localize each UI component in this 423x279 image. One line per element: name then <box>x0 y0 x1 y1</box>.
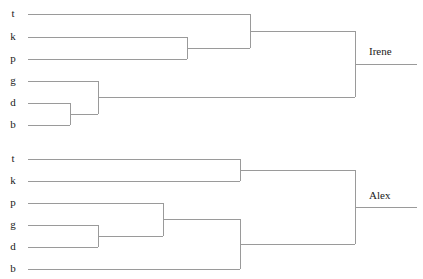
leaf-label-d: d <box>10 96 16 108</box>
leaf-label-g: g <box>10 74 16 86</box>
leaf-label-t: t <box>11 152 14 164</box>
leaf-label-k: k <box>10 30 16 42</box>
dendrogram-canvas: tkpgdbIrene tkpgdbAlex <box>0 0 423 279</box>
leaf-label-p: p <box>10 52 16 64</box>
leaf-label-b: b <box>10 262 16 274</box>
leaf-label-g: g <box>10 218 16 230</box>
dendrogram-figure: tkpgdbIrene tkpgdbAlex <box>0 0 423 279</box>
leaf-label-b: b <box>10 118 16 130</box>
leaf-label-d: d <box>10 240 16 252</box>
leaf-label-k: k <box>10 174 16 186</box>
leaf-label-p: p <box>10 196 16 208</box>
leaf-label-t: t <box>11 7 14 19</box>
dendrogram-tree-alex: tkpgdbAlex <box>10 152 417 274</box>
root-label-irene: Irene <box>369 45 392 57</box>
dendrogram-tree-irene: tkpgdbIrene <box>10 7 417 130</box>
root-label-alex: Alex <box>369 189 391 201</box>
